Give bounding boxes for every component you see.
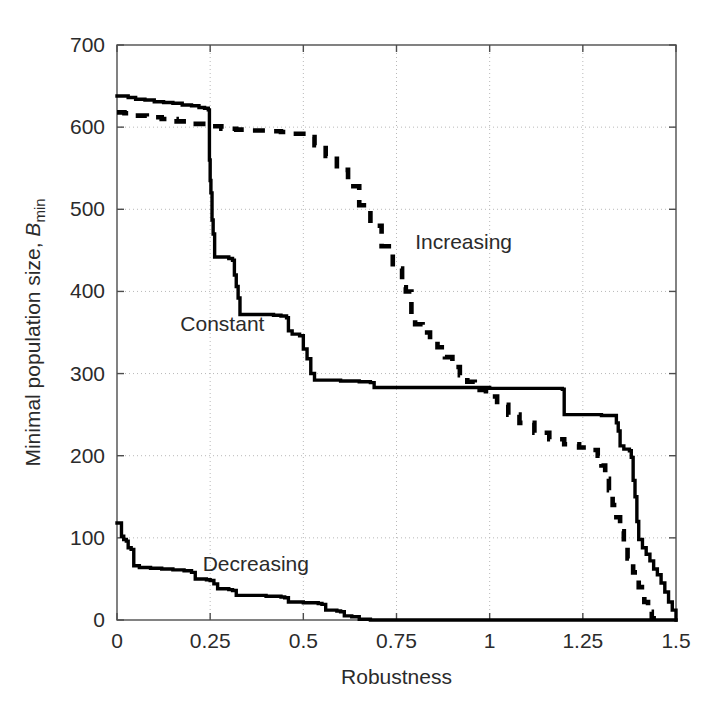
x-axis-tick-label: 1 (484, 629, 496, 652)
chart-canvas: 00.250.50.7511.251.501002003004005006007… (0, 0, 721, 718)
series-label-increasing: Increasing (415, 230, 512, 253)
y-axis-tick-label: 500 (70, 197, 105, 220)
x-axis-tick-label: 0.5 (289, 629, 318, 652)
y-axis-tick-label: 100 (70, 526, 105, 549)
series-annotations-group: ConstantIncreasingDecreasing (180, 230, 512, 575)
y-axis-tick-label: 300 (70, 362, 105, 385)
x-axis-tick-label: 0.25 (190, 629, 231, 652)
chart-figure: 00.250.50.7511.251.501002003004005006007… (0, 0, 721, 718)
y-axis-tick-label: 200 (70, 444, 105, 467)
y-axis-tick-label: 600 (70, 115, 105, 138)
series-label-constant: Constant (180, 312, 264, 335)
tick-labels-group: 00.250.50.7511.251.501002003004005006007… (70, 33, 691, 652)
x-axis-tick-label: 1.25 (562, 629, 603, 652)
series-line-increasing (117, 112, 654, 620)
y-axis-tick-label: 700 (70, 33, 105, 56)
x-axis-tick-label: 0.75 (376, 629, 417, 652)
x-axis-tick-label: 1.5 (661, 629, 690, 652)
y-axis-title: Minimal population size, Bmin (21, 198, 48, 466)
y-axis-tick-label: 400 (70, 279, 105, 302)
y-axis-tick-label: 0 (93, 608, 105, 631)
x-axis-title: Robustness (341, 665, 452, 688)
series-label-decreasing: Decreasing (203, 552, 309, 575)
x-axis-tick-label: 0 (111, 629, 123, 652)
